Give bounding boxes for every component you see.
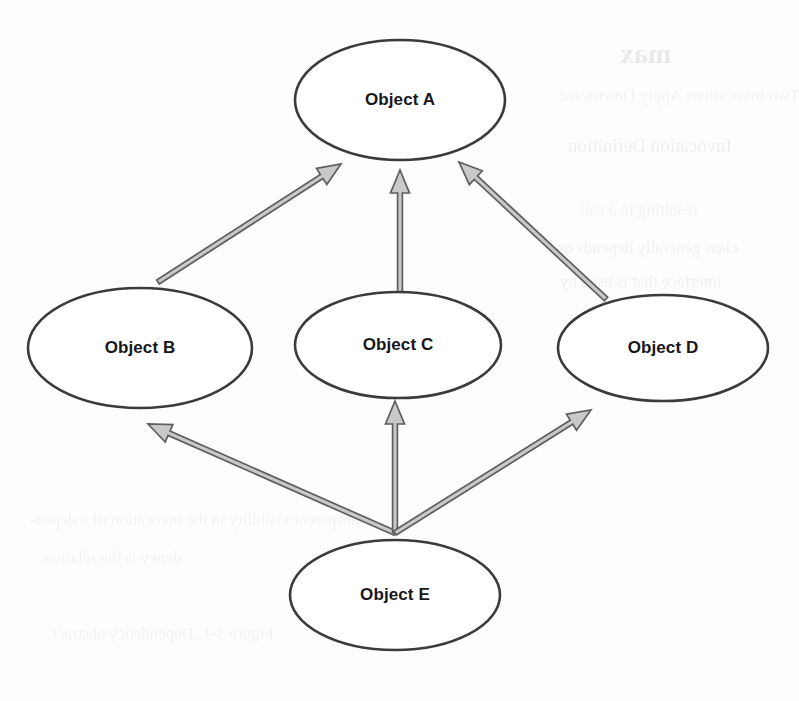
node-label-b: Object B <box>105 338 176 357</box>
edge-arrow-e-to-b <box>148 424 396 535</box>
diagram-page: maxTwo Invocations Apply DownwardInvocat… <box>0 0 799 701</box>
node-label-a: Object A <box>365 90 435 109</box>
edge-arrow-b-to-a <box>157 164 341 284</box>
object-dependency-diagram: Object AObject BObject CObject DObject E <box>0 0 799 701</box>
edge-arrow-d-to-a <box>459 162 608 301</box>
node-label-e: Object E <box>360 585 430 604</box>
edge-arrow-c-to-a <box>391 170 410 293</box>
edge-arrow-e-to-c <box>386 401 405 533</box>
node-label-c: Object C <box>363 335 434 354</box>
node-label-d: Object D <box>628 338 699 357</box>
edge-arrow-e-to-d <box>394 410 591 535</box>
